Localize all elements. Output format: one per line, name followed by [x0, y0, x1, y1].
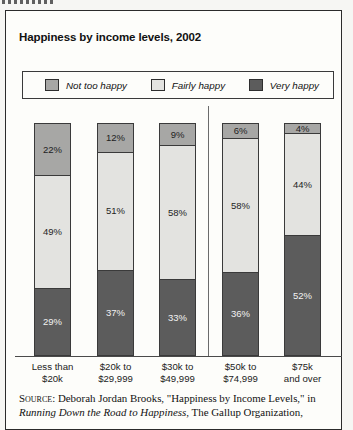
segment-value-label: 9%	[171, 130, 185, 140]
bar-segment-fairly-happy: 58%	[223, 138, 258, 272]
x-axis-label: $75kand over	[284, 361, 321, 384]
bar-2: 12%51%37%	[97, 123, 134, 356]
bar-segment-fairly-happy: 49%	[35, 175, 70, 288]
legend: Not too happy Fairly happy Very happy	[22, 71, 334, 99]
chart-title: Happiness by income levels, 2002	[19, 31, 201, 43]
segment-value-label: 4%	[296, 124, 310, 134]
bar-segment-not-too-happy: 12%	[98, 124, 133, 152]
x-axis-label: $30k to$49,999	[160, 361, 195, 384]
segment-value-label: 49%	[43, 227, 62, 237]
bar-segment-fairly-happy: 44%	[285, 133, 320, 235]
legend-label: Not too happy	[66, 80, 127, 91]
segment-value-label: 52%	[293, 291, 312, 301]
x-axis-label: $50k to$74,999	[223, 361, 258, 384]
clipped-text-fragment	[2, 0, 56, 4]
figure-box: Happiness by income levels, 2002 Not too…	[5, 10, 342, 430]
bar-segment-fairly-happy: 58%	[160, 145, 195, 279]
legend-swatch-fairly-happy	[151, 79, 165, 91]
source-book-title: Running Down the Road to Happiness	[19, 406, 186, 418]
segment-value-label: 58%	[231, 201, 250, 211]
source-note: Source: Deborah Jordan Brooks, "Happines…	[19, 391, 339, 419]
bar-segment-fairly-happy: 51%	[98, 152, 133, 270]
source-prefix: Source:	[19, 392, 55, 404]
bar-3: 9%58%33%	[159, 123, 196, 356]
segment-value-label: 22%	[43, 145, 62, 155]
segment-value-label: 58%	[168, 208, 187, 218]
plot-area: 22%49%29%12%51%37%9%58%33%6%58%36%4%44%5…	[15, 123, 342, 356]
bar-segment-very-happy: 52%	[285, 235, 320, 355]
legend-swatch-very-happy	[249, 79, 263, 91]
bar-5: 4%44%52%	[284, 123, 321, 356]
bar-1: 22%49%29%	[34, 123, 71, 356]
x-axis-label: Less than$20k	[32, 361, 74, 384]
legend-item-fairly-happy: Fairly happy	[151, 79, 225, 91]
bar-segment-very-happy: 29%	[35, 288, 70, 355]
segment-value-label: 36%	[231, 309, 250, 319]
x-axis-label: $20k to$29,999	[98, 361, 133, 384]
bar-4: 6%58%36%	[222, 123, 259, 356]
source-text-after: , The Gallup Organization,	[186, 406, 303, 418]
source-text: Deborah Jordan Brooks, "Happiness by Inc…	[55, 392, 316, 404]
segment-value-label: 51%	[106, 206, 125, 216]
segment-value-label: 29%	[43, 317, 62, 327]
bar-segment-very-happy: 36%	[223, 272, 258, 355]
segment-value-label: 37%	[106, 308, 125, 318]
bar-segment-not-too-happy: 9%	[160, 124, 195, 145]
segment-value-label: 12%	[106, 133, 125, 143]
legend-label: Very happy	[270, 80, 319, 91]
bar-segment-very-happy: 33%	[160, 279, 195, 355]
group-divider-line	[208, 106, 209, 356]
segment-value-label: 33%	[168, 313, 187, 323]
segment-value-label: 6%	[234, 126, 248, 136]
bar-segment-not-too-happy: 4%	[285, 124, 320, 133]
x-axis-labels: Less than$20k$20k to$29,999$30k to$49,99…	[15, 359, 342, 387]
bar-segment-not-too-happy: 22%	[35, 124, 70, 175]
bar-segment-not-too-happy: 6%	[223, 124, 258, 138]
segment-value-label: 44%	[293, 180, 312, 190]
legend-label: Fairly happy	[172, 80, 225, 91]
legend-item-very-happy: Very happy	[249, 79, 319, 91]
bar-segment-very-happy: 37%	[98, 270, 133, 355]
legend-swatch-not-too-happy	[45, 79, 59, 91]
legend-item-not-too-happy: Not too happy	[45, 79, 127, 91]
x-axis-line	[15, 356, 342, 357]
